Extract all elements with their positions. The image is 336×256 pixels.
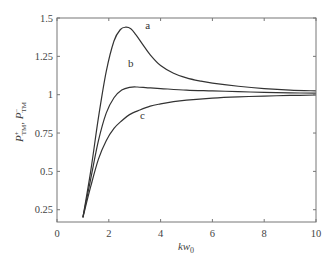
curve-c bbox=[83, 95, 316, 217]
x-tick-label: 4 bbox=[158, 228, 164, 239]
x-tick-label: 6 bbox=[210, 228, 215, 239]
curve-labels: abc bbox=[128, 19, 150, 121]
y-tick-label: 1.25 bbox=[35, 51, 53, 62]
curve-a bbox=[83, 27, 316, 217]
line-chart: abc 0246810 0.250.50.7511.251.5 kw0 P+TM… bbox=[0, 0, 336, 256]
y-axis-label: P+TM, P−TM bbox=[13, 101, 28, 143]
x-tick-label: 10 bbox=[311, 228, 322, 239]
y-tick-label: 0.75 bbox=[35, 128, 53, 139]
curve-label-b: b bbox=[128, 57, 134, 69]
y-tick-label: 1.5 bbox=[40, 13, 53, 24]
x-tick-label: 2 bbox=[106, 228, 111, 239]
axes-frame bbox=[57, 18, 316, 222]
curve-label-c: c bbox=[140, 109, 145, 121]
curve-label-a: a bbox=[145, 19, 150, 31]
x-tick-label: 0 bbox=[54, 228, 59, 239]
x-tick-label: 8 bbox=[262, 228, 267, 239]
y-tick-label: 0.5 bbox=[40, 166, 53, 177]
x-axis-label: kw0 bbox=[178, 240, 194, 255]
curve-b bbox=[83, 87, 316, 217]
y-axis: 0.250.50.7511.251.5 bbox=[35, 13, 316, 216]
y-tick-label: 0.25 bbox=[35, 204, 53, 215]
x-axis: 0246810 bbox=[54, 18, 321, 239]
curves bbox=[83, 27, 316, 217]
y-tick-label: 1 bbox=[48, 89, 53, 100]
